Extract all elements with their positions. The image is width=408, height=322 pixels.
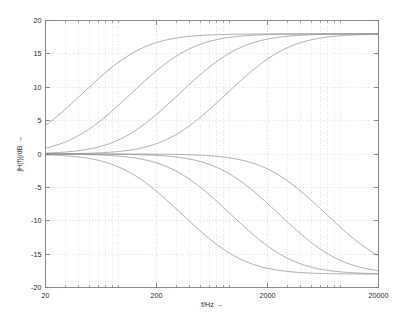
y-tick-label: 0 xyxy=(38,150,42,159)
y-tick-label: 15 xyxy=(34,49,42,58)
figure-canvas: 20200200020000-20-15-10-505101520 f/Hz →… xyxy=(0,0,408,322)
y-axis-title: |H(f)|/dB → xyxy=(15,136,24,172)
x-tick-label: 2000 xyxy=(260,291,276,300)
y-tick-label: -15 xyxy=(31,250,41,259)
y-tick-label: -20 xyxy=(31,283,41,292)
x-tick-label: 20000 xyxy=(369,291,389,300)
y-tick-label: 10 xyxy=(34,83,42,92)
x-tick-label: 200 xyxy=(151,291,163,300)
y-tick-label: 20 xyxy=(34,16,42,25)
y-tick-label: -10 xyxy=(31,216,41,225)
y-tick-label: 5 xyxy=(38,116,42,125)
x-axis-title: f/Hz → xyxy=(201,300,223,309)
bode-magnitude-plot: 20200200020000-20-15-10-505101520 f/Hz →… xyxy=(0,0,408,322)
x-tick-label: 20 xyxy=(42,291,50,300)
y-tick-label: -5 xyxy=(35,183,41,192)
